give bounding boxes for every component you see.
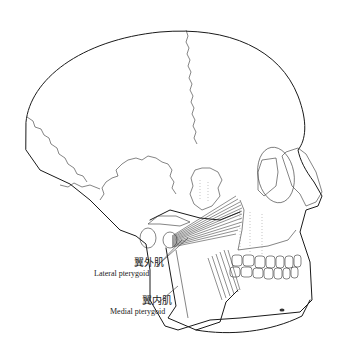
- coronal-suture: [186, 30, 197, 144]
- cranium-outline: [26, 31, 322, 330]
- lower-teeth: [230, 267, 298, 279]
- squamosal-suture: [100, 156, 176, 200]
- lateral-pterygoid-label-zh: 翼外肌: [134, 257, 164, 268]
- mental-foramen: [280, 309, 285, 312]
- medial-pterygoid-label-zh: 翼内肌: [142, 294, 172, 306]
- maxilla-outline: [238, 200, 296, 250]
- ramus-inner: [176, 250, 188, 318]
- lateral-pterygoid-label-en: Lateral pterygoid: [94, 269, 149, 278]
- skull-illustration: 翼外肌 Lateral pterygoid 翼内肌 Medial pterygo…: [0, 0, 338, 355]
- upper-teeth: [232, 255, 301, 268]
- orbit: [253, 144, 298, 205]
- ear-canal: [140, 228, 156, 248]
- sphenoid-region: [190, 168, 222, 210]
- lambdoid-suture: [27, 117, 87, 182]
- lateral-pterygoid-muscle: [172, 196, 242, 247]
- medial-pterygoid-label-en: Medial pterygoid: [110, 307, 165, 316]
- zygomatic: [258, 158, 278, 196]
- parietal-temporal-suture: [60, 183, 100, 189]
